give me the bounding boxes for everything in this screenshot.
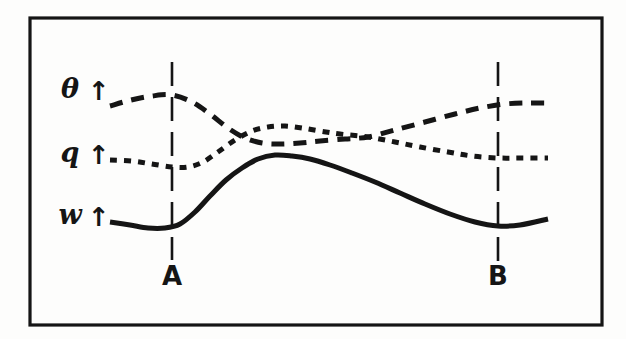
axis-arrow-icon-0: ↑ bbox=[88, 76, 110, 106]
axis-arrow-icon-2: ↑ bbox=[88, 202, 110, 232]
figure-border bbox=[30, 18, 602, 325]
curve-series-group bbox=[110, 95, 548, 229]
curve-vertical-velocity bbox=[110, 155, 548, 229]
reference-labels-group: AB bbox=[162, 261, 508, 291]
reference-lines-group bbox=[172, 62, 498, 262]
curve-specific-humidity bbox=[110, 126, 548, 168]
figure-container: θ↑q↑w↑ AB bbox=[0, 0, 626, 339]
axis-label-2: w bbox=[58, 199, 83, 230]
figure-border-group bbox=[30, 18, 602, 325]
axis-labels-group: θ↑q↑w↑ bbox=[58, 73, 110, 232]
figure-canvas: θ↑q↑w↑ AB bbox=[0, 0, 626, 339]
axis-label-0: θ bbox=[61, 73, 79, 104]
reference-label-b: B bbox=[488, 261, 508, 291]
curve-theta bbox=[110, 95, 548, 144]
axis-arrow-icon-1: ↑ bbox=[88, 140, 110, 170]
axis-label-1: q bbox=[61, 137, 80, 168]
reference-label-a: A bbox=[162, 261, 182, 291]
